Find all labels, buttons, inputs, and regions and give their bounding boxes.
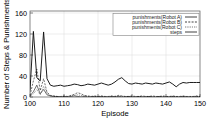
chart-figure: 160 120 80 40 0 100 110 120 130 140 150 … bbox=[0, 0, 209, 128]
x-tick-label: 140 bbox=[160, 99, 172, 108]
x-tick-label: 130 bbox=[126, 99, 138, 108]
series-line-punishments-robot-c bbox=[30, 86, 200, 97]
y-tick-labels: 160 120 80 40 0 bbox=[15, 9, 27, 102]
y-tick-label: 40 bbox=[19, 72, 27, 81]
y-tick-label: 120 bbox=[15, 30, 27, 39]
series-line-steps bbox=[30, 31, 200, 90]
x-tick-label: 150 bbox=[194, 99, 206, 108]
y-tick-label: 160 bbox=[15, 9, 27, 18]
legend-label-steps: steps bbox=[170, 29, 182, 35]
y-tick-label: 80 bbox=[19, 51, 27, 60]
legend: punishments(Robot A) punishments(Robot B… bbox=[113, 14, 199, 36]
series-lines bbox=[30, 31, 200, 97]
series-line-punishments-robot-b bbox=[30, 69, 200, 96]
x-tick-label: 100 bbox=[24, 99, 36, 108]
x-tick-label: 110 bbox=[58, 99, 69, 108]
line-chart: 160 120 80 40 0 100 110 120 130 140 150 … bbox=[0, 0, 209, 128]
x-tick-label: 120 bbox=[92, 99, 104, 108]
series-line-punishments-robot-a bbox=[30, 85, 200, 97]
x-tick-labels: 100 110 120 130 140 150 bbox=[24, 99, 206, 108]
x-axis-title: Episode bbox=[101, 109, 128, 118]
y-axis-title: Number of Steps & Punishments bbox=[2, 0, 11, 109]
